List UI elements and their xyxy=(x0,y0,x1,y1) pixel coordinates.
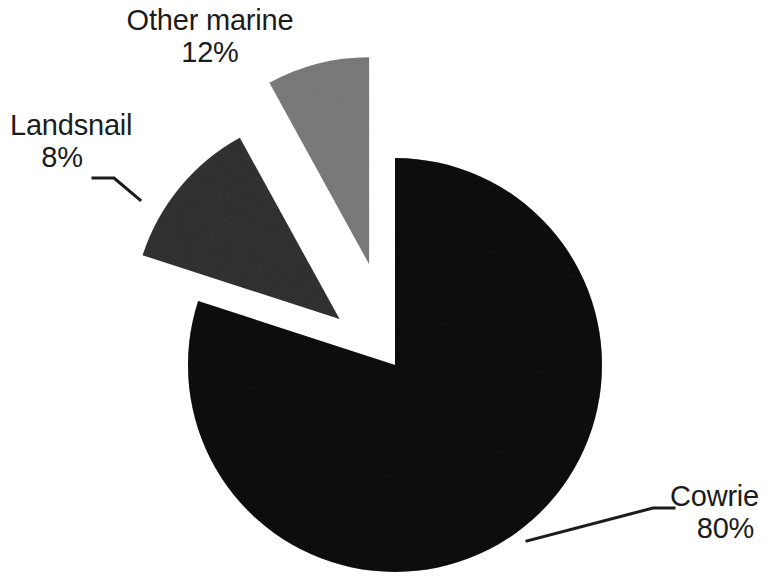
pie-label-cowrie-name: Cowrie xyxy=(670,480,773,512)
leader-line-cowrie xyxy=(527,508,674,541)
pie-label-other-marine-percent: 12% xyxy=(0,36,420,68)
pie-slice-other-marine[interactable] xyxy=(143,138,340,319)
pie-chart-canvas xyxy=(0,0,773,585)
pie-label-landsnail: Landsnail 8% xyxy=(0,109,148,174)
pie-label-cowrie-percent: 80% xyxy=(670,512,773,544)
pie-label-cowrie: Cowrie 80% xyxy=(670,480,773,545)
pie-label-other-marine-name: Other marine xyxy=(0,4,420,36)
pie-label-landsnail-percent: 8% xyxy=(10,141,148,173)
leader-line-landsnail xyxy=(93,178,140,200)
pie-label-other-marine: Other marine 12% xyxy=(0,4,420,69)
pie-label-landsnail-name: Landsnail xyxy=(10,109,148,141)
pie-chart: Other marine 12% Landsnail 8% Cowrie 80% xyxy=(0,0,773,585)
